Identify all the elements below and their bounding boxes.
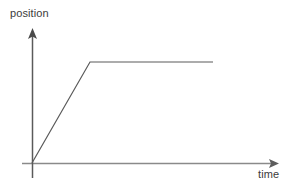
x-axis-label: time: [258, 168, 279, 180]
plot-canvas: [0, 0, 292, 186]
y-axis-label: position: [10, 7, 49, 19]
position-curve: [32, 62, 213, 163]
position-time-graph: position time: [0, 0, 292, 186]
